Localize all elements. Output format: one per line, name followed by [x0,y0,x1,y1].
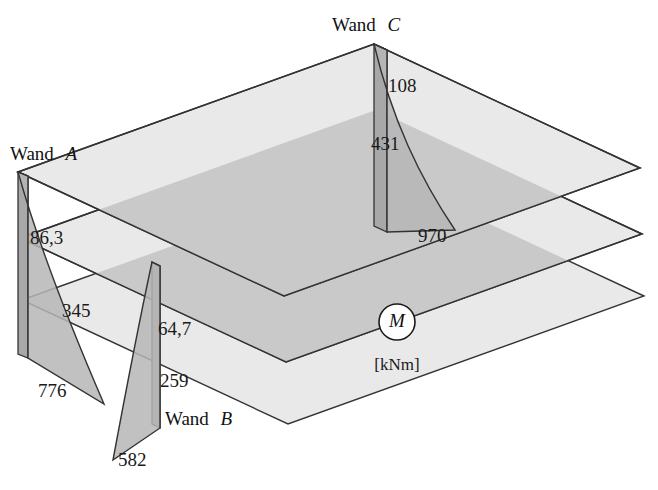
legend-symbol: M [388,310,406,331]
wall-a-label: Wand A [10,143,78,164]
legend-unit: [kNm] [374,355,419,374]
wall-c-label-text: Wand [332,14,376,35]
wall-a-value-1: 86,3 [30,227,63,248]
svg-text:Wand C: Wand C [332,14,401,35]
svg-text:Wand B: Wand B [165,408,233,429]
wall-c-value-3: 970 [418,225,447,246]
wall-b-label-text: Wand [165,408,209,429]
wall-a-designation: A [64,143,78,164]
wall-b-designation: B [221,408,233,429]
wall-c-value-1: 108 [388,75,417,96]
wall-a-value-2: 345 [62,300,91,321]
wall-c-value-2: 431 [371,133,400,154]
isometric-scene: Wand A 86,3 345 776 Wand B 64,7 259 582 … [0,0,658,490]
wall-b-value-2: 259 [160,370,189,391]
moment-diagram-figure: Wand A 86,3 345 776 Wand B 64,7 259 582 … [0,0,658,490]
wall-b-label: Wand B [165,408,233,429]
wall-a-value-3: 776 [38,380,67,401]
svg-text:Wand A: Wand A [10,143,78,164]
wall-c-label: Wand C [332,14,401,35]
wall-a-label-text: Wand [10,143,54,164]
wall-b-value-1: 64,7 [158,318,191,339]
wall-b-value-3: 582 [118,449,147,470]
wall-c-designation: C [388,14,401,35]
